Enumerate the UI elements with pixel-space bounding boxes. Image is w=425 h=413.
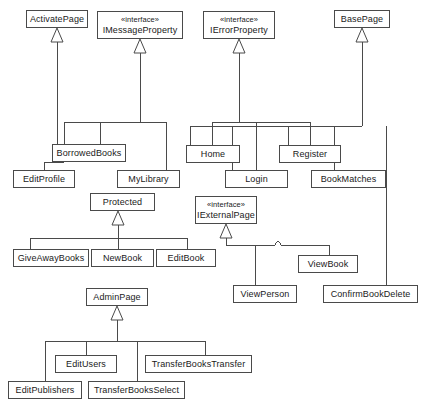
arrowhead-to-basepage (356, 28, 368, 42)
class-name: Protected (103, 197, 142, 208)
class-name: ConfirmBookDelete (331, 289, 411, 300)
class-name: BookMatches (321, 174, 377, 185)
class-node-confirmbookdelete[interactable]: ConfirmBookDelete (323, 285, 418, 303)
class-node-adminpage[interactable]: AdminPage (86, 288, 148, 306)
class-name: ViewBook (308, 259, 349, 270)
class-node-register[interactable]: Register (279, 145, 341, 163)
class-stereotype: «interface» (207, 200, 245, 210)
class-node-login[interactable]: Login (225, 170, 288, 188)
class-node-activatepage[interactable]: ActivatePage (26, 10, 88, 28)
class-node-bookmatches[interactable]: BookMatches (311, 170, 386, 188)
class-stereotype: «interface» (220, 15, 258, 25)
class-node-basepage[interactable]: BasePage (334, 10, 390, 28)
arrowhead-to-adminpage (111, 306, 123, 320)
class-node-editpublishers[interactable]: EditPublishers (8, 381, 82, 399)
arrowhead-to-ierrorproperty (233, 39, 245, 53)
class-node-viewbook[interactable]: ViewBook (298, 255, 358, 273)
class-node-borrowedbooks[interactable]: BorrowedBooks (52, 144, 126, 162)
class-name: EditBook (168, 253, 205, 264)
class-name: ActivatePage (30, 14, 84, 25)
class-stereotype: «interface» (121, 15, 159, 25)
class-name: NewBook (103, 253, 142, 264)
class-node-ierrorproperty[interactable]: «interface»IErrorProperty (203, 11, 275, 39)
class-node-viewperson[interactable]: ViewPerson (233, 285, 297, 303)
class-node-editbook[interactable]: EditBook (156, 249, 216, 267)
class-name: Login (245, 174, 268, 185)
class-name: BasePage (341, 14, 383, 25)
class-name: TransferBooksTransfer (152, 359, 245, 370)
class-node-newbook[interactable]: NewBook (91, 249, 154, 267)
uml-class-diagram: ActivatePage «interface»IMessageProperty… (0, 0, 425, 413)
class-name: MyLibrary (128, 174, 168, 185)
class-node-transferbooksselect[interactable]: TransferBooksSelect (88, 381, 185, 399)
class-name: Register (293, 149, 327, 160)
class-name: GiveAwayBooks (18, 253, 85, 264)
class-name: ViewPerson (241, 289, 290, 300)
class-name: EditProfile (23, 174, 65, 185)
class-node-protected[interactable]: Protected (90, 193, 155, 211)
class-node-mylibrary[interactable]: MyLibrary (117, 170, 180, 188)
class-node-home[interactable]: Home (186, 145, 240, 163)
class-node-iexternalpage[interactable]: «interface»IExternalPage (195, 196, 257, 224)
class-name: TransferBooksSelect (94, 385, 179, 396)
arrowhead-to-activatepage (51, 28, 63, 42)
arrowhead-to-iexternalpage (220, 224, 232, 238)
class-name: EditPublishers (16, 385, 75, 396)
class-name: IErrorProperty (210, 25, 268, 36)
class-node-editusers[interactable]: EditUsers (55, 355, 117, 373)
arrowhead-to-protected (112, 211, 124, 225)
class-name: BorrowedBooks (57, 148, 122, 159)
class-node-transferbookstransfer[interactable]: TransferBooksTransfer (145, 355, 252, 373)
arrowhead-to-imessageproperty (134, 39, 146, 53)
class-node-editprofile[interactable]: EditProfile (13, 170, 75, 188)
class-name: IMessageProperty (103, 25, 178, 36)
class-node-giveawaybooks[interactable]: GiveAwayBooks (13, 249, 89, 267)
class-name: EditUsers (66, 359, 106, 370)
class-name: Home (201, 149, 225, 160)
class-node-imessageproperty[interactable]: «interface»IMessageProperty (97, 11, 183, 39)
class-name: IExternalPage (197, 210, 255, 221)
edge-iexternalpage-hop (275, 242, 281, 246)
class-name: AdminPage (93, 292, 140, 303)
